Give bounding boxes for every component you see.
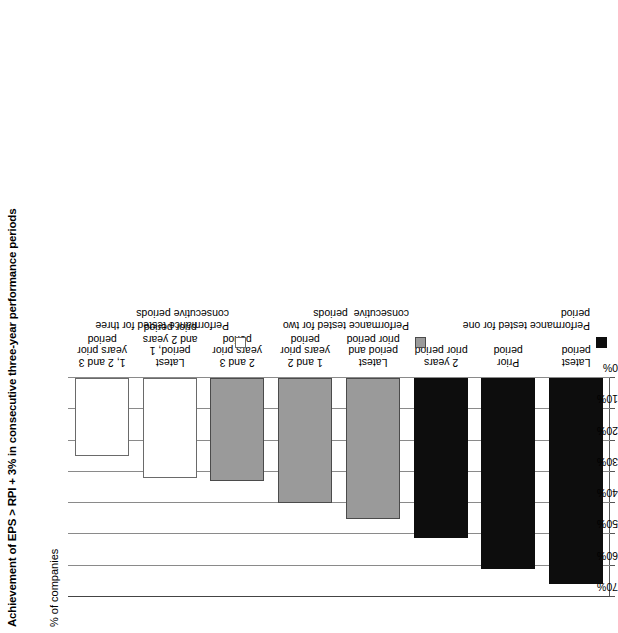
axis-tick-label: 20% bbox=[597, 425, 618, 437]
axis-tick-label: 40% bbox=[597, 487, 618, 499]
bar bbox=[346, 378, 400, 519]
axis-tick bbox=[610, 565, 615, 566]
value-axis-label: % of companies bbox=[48, 549, 60, 627]
bar bbox=[210, 378, 264, 481]
legend-label-one: Performance tested for one period bbox=[463, 308, 590, 332]
axis-tick-label: 60% bbox=[597, 550, 618, 562]
axis-tick-label: 50% bbox=[597, 518, 618, 530]
legend-label-three: Performance tested for three consecutive… bbox=[95, 308, 229, 332]
axis-tick-label: 10% bbox=[597, 393, 618, 405]
axis-tick-label: 30% bbox=[597, 456, 618, 468]
axis-tick-label: 70% bbox=[597, 581, 618, 593]
bar bbox=[75, 378, 129, 456]
axis-tick bbox=[610, 533, 615, 534]
bar bbox=[143, 378, 197, 478]
legend-swatch-three bbox=[235, 337, 246, 348]
axis-tick bbox=[610, 440, 615, 441]
bar bbox=[278, 378, 332, 503]
axis-tick bbox=[610, 408, 615, 409]
chart-title: Achievement of EPS > RPI + 3% in consecu… bbox=[6, 7, 18, 627]
plot-area bbox=[68, 378, 610, 597]
category-label: Prior period bbox=[475, 345, 543, 368]
legend-swatch-one bbox=[596, 337, 607, 348]
axis-tick bbox=[610, 377, 615, 378]
legend-swatch-two bbox=[415, 337, 426, 348]
category-label: 2 years prior period bbox=[407, 345, 475, 368]
axis-tick bbox=[610, 471, 615, 472]
bar bbox=[414, 378, 468, 538]
category-label: Latest period bbox=[542, 345, 610, 368]
bar bbox=[481, 378, 535, 569]
legend-label-two: Performance tested for two consecutive p… bbox=[283, 308, 409, 332]
bar bbox=[549, 378, 603, 584]
axis-tick bbox=[610, 502, 615, 503]
chart-legend: Performance tested for one periodPerform… bbox=[68, 278, 610, 348]
axis-tick bbox=[610, 596, 615, 597]
